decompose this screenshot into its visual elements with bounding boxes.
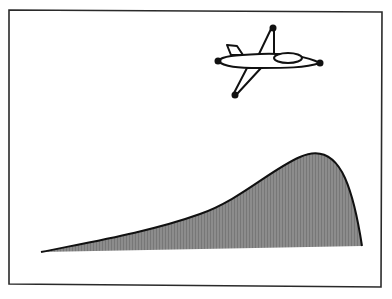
canopy xyxy=(274,53,302,63)
top-wingtip-dot xyxy=(270,25,277,32)
tail-dot xyxy=(215,58,222,65)
bottom-wingtip-dot xyxy=(232,92,239,99)
nose-dot xyxy=(317,60,324,67)
figure-canvas xyxy=(0,0,392,299)
